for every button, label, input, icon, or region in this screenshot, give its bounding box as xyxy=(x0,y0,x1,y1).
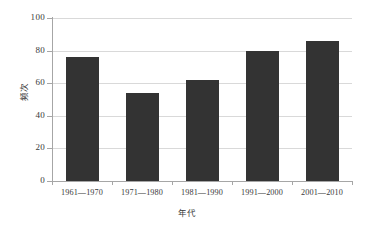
y-axis-title: 频次 xyxy=(17,83,29,101)
y-axis-tick-label: 40 xyxy=(5,111,45,120)
bar xyxy=(126,93,159,181)
x-axis-tick xyxy=(292,181,293,185)
x-axis-tick xyxy=(232,181,233,185)
x-axis-category-label: 1991—2000 xyxy=(232,188,292,197)
x-axis-category-label: 1961—1970 xyxy=(52,188,112,197)
x-axis-category-label: 1981—1990 xyxy=(172,188,232,197)
bar xyxy=(186,80,219,181)
y-axis-tick-label: 80 xyxy=(5,46,45,55)
y-axis-tick-label: 0 xyxy=(5,176,45,185)
bar xyxy=(306,41,339,181)
bar xyxy=(66,57,99,181)
x-axis-title: 年代 xyxy=(0,206,373,218)
x-axis-line xyxy=(52,181,353,182)
x-axis-tick xyxy=(112,181,113,185)
bar xyxy=(246,51,279,181)
x-axis-category-label: 1971—1980 xyxy=(112,188,172,197)
bar-chart: 020406080100 1961—19701971—19801981—1990… xyxy=(0,0,373,228)
x-axis-tick xyxy=(352,181,353,185)
x-axis-tick xyxy=(172,181,173,185)
plot-area xyxy=(52,18,352,181)
x-axis-category-label: 2001—2010 xyxy=(292,188,352,197)
y-axis-tick-label: 20 xyxy=(5,143,45,152)
x-axis-tick xyxy=(52,181,53,185)
y-axis-tick-label: 100 xyxy=(5,13,45,22)
